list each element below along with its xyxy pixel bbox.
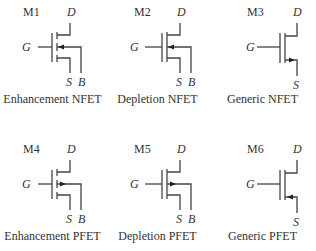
body-label: B <box>188 213 195 225</box>
transistor-id: M1 <box>23 6 40 18</box>
source-label: S <box>66 76 72 88</box>
transistor-caption: Enhancement NFET <box>0 93 105 105</box>
source-label: S <box>293 79 299 91</box>
transistor-id: M6 <box>247 143 264 155</box>
transistor-caption: Generic PFET <box>210 230 315 242</box>
source-label: S <box>176 76 182 88</box>
transistor-caption: Depletion NFET <box>105 93 210 105</box>
drain-label: D <box>177 6 186 18</box>
transistor-id: M2 <box>134 6 151 18</box>
source-label: S <box>176 213 182 225</box>
body-label: B <box>78 213 85 225</box>
transistor-m1: M1 D G S B Enhancement NFET <box>0 0 105 110</box>
gate-label: G <box>246 178 255 190</box>
transistor-id: M4 <box>23 143 40 155</box>
drain-label: D <box>67 6 76 18</box>
body-label: B <box>188 76 195 88</box>
source-label: S <box>66 213 72 225</box>
transistor-caption: Generic NFET <box>210 93 315 105</box>
gate-label: G <box>130 178 139 190</box>
gate-label: G <box>22 178 31 190</box>
transistor-m4: M4 D G S B Enhancement PFET <box>0 140 105 250</box>
transistor-m3: M3 D G S Generic NFET <box>210 0 315 110</box>
drain-label: D <box>67 143 76 155</box>
transistor-m5: M5 D G S B Depletion PFET <box>105 140 210 250</box>
source-label: S <box>293 216 299 228</box>
transistor-id: M3 <box>247 6 264 18</box>
transistor-m6: M6 D G S Generic PFET <box>210 140 315 250</box>
drain-label: D <box>293 6 302 18</box>
body-label: B <box>78 76 85 88</box>
drain-label: D <box>293 143 302 155</box>
transistor-id: M5 <box>134 143 151 155</box>
gate-label: G <box>130 41 139 53</box>
transistor-caption: Enhancement PFET <box>0 230 105 242</box>
transistor-caption: Depletion PFET <box>105 230 210 242</box>
transistor-m2: M2 D G S B Depletion NFET <box>105 0 210 110</box>
drain-label: D <box>177 143 186 155</box>
gate-label: G <box>22 41 31 53</box>
gate-label: G <box>246 41 255 53</box>
